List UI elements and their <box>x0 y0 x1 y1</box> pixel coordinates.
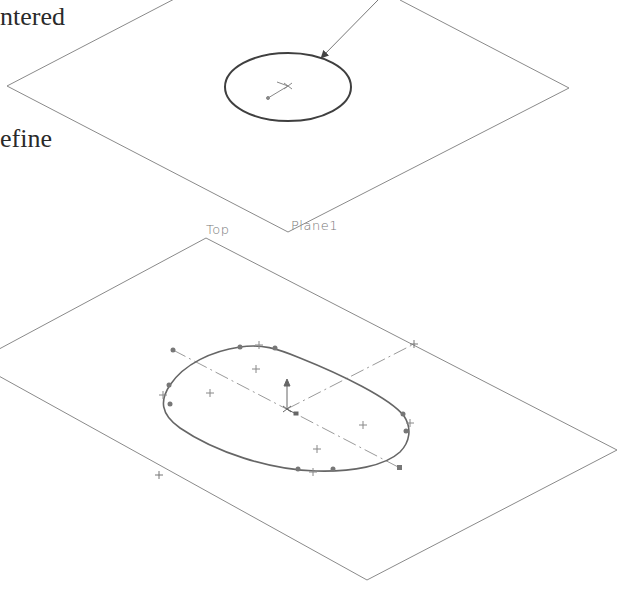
leader-arrow-icon <box>322 0 378 57</box>
cad-viewport <box>0 0 634 592</box>
centerline-minor[interactable] <box>287 344 414 409</box>
origin-icon <box>267 82 293 100</box>
top-plane-origin-icon <box>283 379 298 415</box>
plane1-outline[interactable] <box>7 0 569 232</box>
top-plane-outline[interactable] <box>0 238 617 580</box>
circle-sketch[interactable] <box>225 53 351 121</box>
